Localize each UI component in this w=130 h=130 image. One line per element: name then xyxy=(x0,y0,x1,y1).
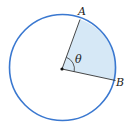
label-theta: θ xyxy=(75,53,82,66)
center-dot xyxy=(60,67,63,70)
label-a: A xyxy=(77,5,86,18)
shaded-sector xyxy=(62,20,117,81)
label-b: B xyxy=(115,76,124,89)
circle-sector-diagram: A B θ xyxy=(0,0,130,130)
